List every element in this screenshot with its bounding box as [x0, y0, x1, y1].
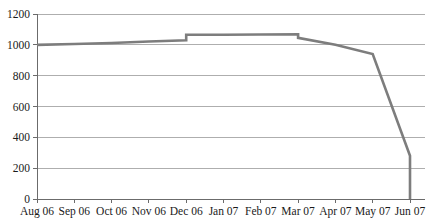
- x-axis-tick-marks: [37, 199, 410, 203]
- y-axis-tick-label: 0: [24, 193, 30, 205]
- x-axis-tick-label: Feb 07: [245, 205, 277, 217]
- x-axis-tick-label: Nov 06: [132, 205, 166, 217]
- y-axis-tick-marks: [33, 14, 37, 199]
- y-axis-tick-label: 800: [13, 70, 31, 82]
- line-chart: 020040060080010001200 Aug 06Sep 06Oct 06…: [0, 0, 440, 224]
- x-axis-tick-label: Jan 07: [209, 205, 239, 217]
- chart-canvas: 020040060080010001200 Aug 06Sep 06Oct 06…: [0, 0, 440, 224]
- x-axis-tick-label: Apr 07: [319, 205, 352, 218]
- x-axis-tick-label: Jun 07: [395, 205, 426, 217]
- x-axis-tick-label: Aug 06: [20, 205, 54, 218]
- x-axis-tick-label: Dec 06: [170, 205, 203, 217]
- y-axis-tick-label: 1000: [7, 39, 30, 51]
- y-axis-tick-labels: 020040060080010001200: [7, 8, 30, 205]
- data-series-line: [37, 34, 410, 199]
- y-axis-tick-label: 400: [13, 131, 31, 143]
- x-axis-tick-label: Mar 07: [281, 205, 315, 217]
- y-axis-tick-label: 200: [13, 162, 31, 174]
- x-axis-tick-label: Sep 06: [58, 205, 90, 218]
- x-axis-tick-label: May 07: [355, 205, 391, 218]
- y-axis-tick-label: 1200: [7, 8, 30, 20]
- y-axis-tick-label: 600: [13, 101, 31, 113]
- x-axis-tick-labels: Aug 06Sep 06Oct 06Nov 06Dec 06Jan 07Feb …: [20, 205, 426, 218]
- gridlines: [37, 14, 425, 168]
- x-axis-tick-label: Oct 06: [96, 205, 127, 217]
